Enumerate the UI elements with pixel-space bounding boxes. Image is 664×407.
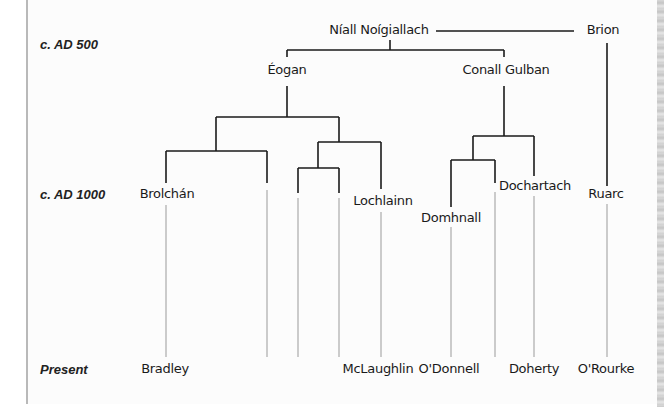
surname-bradley: Bradley (141, 361, 189, 376)
surname-orourke: O'Rourke (578, 361, 634, 376)
surname-mclaughlin: McLaughlin (343, 361, 414, 376)
person-brion: Brion (587, 22, 620, 37)
person-brolchan: Brolchán (140, 186, 195, 201)
era-label-present: Present (40, 362, 88, 377)
person-dochartach: Dochartach (499, 178, 571, 193)
person-niall: Níall Noígiallach (329, 22, 428, 37)
era-label-ad500: c. AD 500 (40, 37, 98, 52)
surname-doherty: Doherty (509, 361, 559, 376)
person-lochlainn: Lochlainn (353, 193, 412, 208)
person-eogan: Éogan (267, 62, 306, 77)
era-label-ad1000: c. AD 1000 (40, 187, 105, 202)
person-ruarc: Ruarc (588, 186, 623, 201)
person-domhnall: Domhnall (421, 210, 481, 225)
light-lines (166, 190, 607, 357)
family-tree-lines (0, 0, 664, 407)
person-conall: Conall Gulban (462, 62, 549, 77)
surname-odonnell: O'Donnell (419, 361, 480, 376)
